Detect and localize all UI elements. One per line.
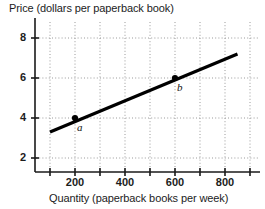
data-point-markers	[72, 75, 178, 121]
vertical-gridlines	[50, 22, 250, 171]
y-tick-label: 8	[10, 31, 26, 43]
horizontal-gridlines	[36, 38, 258, 158]
axis-lines	[35, 18, 260, 172]
x-tick-label: 800	[210, 176, 240, 188]
x-tick-label: 200	[60, 176, 90, 188]
chart-screenshot: Price (dollars per paperback book) 2468 …	[0, 0, 265, 209]
y-tick-label: 4	[10, 111, 26, 123]
y-tick-label: 6	[10, 71, 26, 83]
point-label-b: b	[177, 81, 183, 93]
x-tick-label: 400	[110, 176, 140, 188]
point-label-a: a	[77, 121, 83, 133]
x-tick-label: 600	[160, 176, 190, 188]
tick-marks	[31, 38, 250, 176]
x-axis-title: Quantity (paperback books per week)	[49, 192, 228, 204]
y-tick-label: 2	[10, 151, 26, 163]
